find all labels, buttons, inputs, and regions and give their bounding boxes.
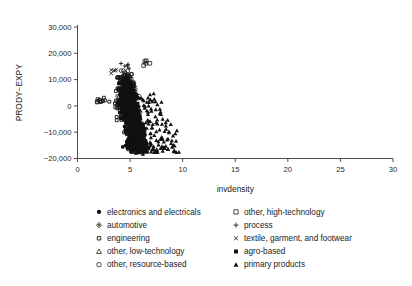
data-point — [152, 133, 156, 137]
scatter-plot-figure: −20,000−10,000010,00020,00030,000 051015… — [0, 0, 412, 286]
y-tick-label: 0 — [67, 102, 71, 111]
y-tick-label: −10,000 — [44, 128, 72, 137]
data-point — [166, 118, 170, 122]
data-point — [149, 136, 153, 140]
data-point — [121, 92, 124, 95]
legend-item-other-high-technology[interactable]: other, high-technology — [234, 208, 326, 217]
y-tick-label: 10,000 — [48, 75, 71, 84]
data-point — [131, 113, 134, 116]
data-point — [125, 99, 128, 102]
data-point — [152, 91, 156, 95]
legend-label: other, high-technology — [244, 208, 325, 217]
data-point — [164, 124, 168, 128]
data-point — [159, 100, 163, 104]
data-point — [102, 96, 105, 99]
data-point — [160, 122, 164, 126]
legend-marker-circle-open — [97, 262, 101, 266]
y-tick-label: 20,000 — [48, 49, 71, 58]
x-tick-label: 15 — [231, 165, 239, 174]
data-point — [142, 64, 146, 68]
data-point — [174, 139, 178, 143]
data-point — [158, 107, 162, 111]
legend-marker-filled-triangle — [234, 262, 239, 266]
x-tick-label: 0 — [75, 165, 79, 174]
data-point — [146, 104, 150, 108]
legend-marker-filled-square — [234, 250, 238, 254]
data-point — [130, 97, 133, 100]
data-point — [122, 98, 125, 101]
data-point — [161, 117, 165, 121]
x-axis-title: invdensity — [217, 184, 255, 194]
legend-label: primary products — [244, 260, 305, 269]
legend-label: process — [244, 221, 273, 230]
data-point — [124, 104, 127, 107]
legend-marker-small-square — [97, 237, 100, 240]
legend-item-textile-garment-and-footwear[interactable]: textile, garment, and footwear — [234, 234, 352, 243]
data-point — [127, 106, 130, 109]
data-point — [134, 123, 137, 126]
legend-label: electronics and electricals — [107, 208, 201, 217]
data-point — [170, 138, 174, 142]
data-point — [133, 102, 136, 105]
data-points-layer — [95, 59, 181, 156]
x-tick-label: 5 — [128, 165, 132, 174]
data-point — [148, 61, 152, 65]
y-axis-ticks: −20,000−10,000010,00020,00030,000 — [44, 23, 78, 164]
data-point — [123, 86, 126, 89]
legend-label: other, resource-based — [107, 260, 187, 269]
data-point — [119, 102, 122, 105]
y-axis-title: PRODY−EXPY — [14, 64, 24, 121]
y-tick-label: −20,000 — [44, 154, 72, 163]
data-point — [154, 108, 158, 112]
x-tick-label: 30 — [389, 165, 397, 174]
data-point — [119, 69, 123, 73]
legend-marker-square-open — [234, 210, 238, 214]
legend-label: automotive — [107, 221, 147, 230]
legend-label: textile, garment, and footwear — [244, 234, 352, 243]
x-tick-label: 25 — [336, 165, 344, 174]
data-point — [135, 110, 138, 113]
legend-marker-filled-circle — [97, 210, 101, 214]
legend-item-other-resource-based[interactable]: other, resource-based — [97, 260, 187, 269]
legend-marker-triangle-open — [97, 249, 102, 253]
data-point — [128, 93, 131, 96]
data-point — [131, 90, 134, 93]
legend-item-process[interactable]: process — [234, 221, 273, 230]
data-point — [143, 134, 146, 137]
legend-item-automotive[interactable]: automotive — [97, 221, 148, 230]
legend-item-agro-based[interactable]: agro-based — [234, 247, 286, 256]
legend-label: engineering — [107, 234, 150, 243]
data-point — [128, 114, 131, 117]
legend-label: agro-based — [244, 247, 286, 256]
data-point — [149, 131, 153, 135]
legend-item-electronics-and-electricals[interactable]: electronics and electricals — [97, 208, 201, 217]
x-axis-ticks: 051015202530 — [75, 159, 397, 174]
data-point — [129, 131, 132, 134]
data-point — [157, 128, 161, 132]
data-point — [115, 115, 118, 118]
legend-label: other, low-technology — [107, 247, 185, 256]
data-point — [125, 80, 128, 83]
legend-item-other-low-technology[interactable]: other, low-technology — [97, 247, 186, 256]
x-tick-label: 20 — [284, 165, 292, 174]
data-point — [132, 143, 135, 146]
data-point — [148, 140, 152, 144]
data-point — [108, 100, 111, 103]
legend-item-engineering[interactable]: engineering — [97, 234, 150, 243]
legend-item-primary-products[interactable]: primary products — [234, 260, 305, 269]
data-point — [128, 127, 131, 130]
data-point — [175, 128, 179, 132]
data-point — [177, 150, 181, 154]
data-point — [131, 135, 134, 138]
x-tick-label: 10 — [178, 165, 186, 174]
data-point — [118, 99, 121, 102]
chart-legend: electronics and electricalsautomotiveeng… — [97, 208, 353, 270]
data-point — [153, 115, 157, 119]
data-point — [148, 92, 152, 96]
data-point — [130, 121, 133, 124]
marker-diamond-center — [98, 224, 100, 226]
data-point — [115, 119, 118, 122]
chart-canvas: −20,000−10,000010,00020,00030,000 051015… — [0, 0, 412, 286]
y-tick-label: 30,000 — [48, 23, 71, 32]
data-point — [119, 89, 122, 92]
